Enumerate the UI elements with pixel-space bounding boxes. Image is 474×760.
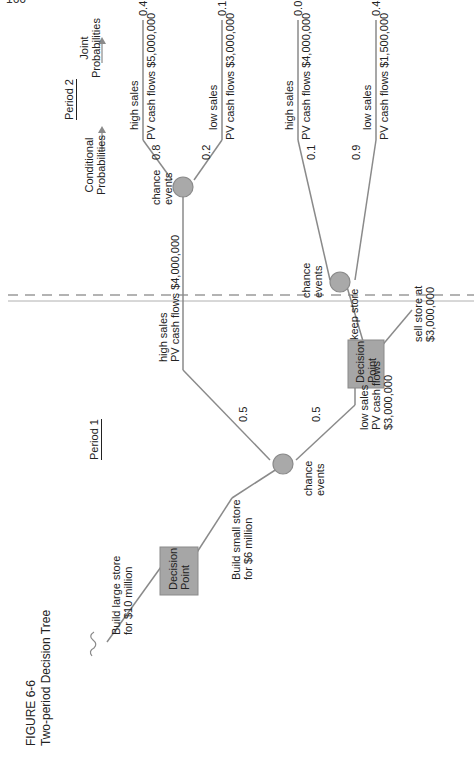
p1-high-label: high sales PV cash flows $4,000,000: [157, 235, 181, 362]
period-2-label: Period 2: [63, 79, 75, 120]
outcome-4-joint: 0.45: [370, 0, 382, 16]
outcome-3-joint: 0.05: [292, 0, 304, 16]
outcome-3-conditional: 0.1: [305, 145, 317, 160]
chance-events-period1-label: chance events: [302, 461, 326, 496]
branch-p1-high: [183, 370, 270, 460]
p1-high-probability: 0.5: [237, 407, 249, 422]
outcome-1-event: high sales: [128, 80, 140, 130]
figure-title: Two-period Decision Tree: [39, 610, 54, 746]
sell-store-label: sell store at $3,000,000: [412, 286, 436, 342]
decision-tree-diagram: FIGURE 6-6 Two-period Decision Tree Peri…: [0, 0, 474, 760]
broken-branch-squiggle-icon: [90, 632, 95, 656]
chance-node-period1-icon: [273, 454, 293, 474]
branch-p1-low: [296, 405, 355, 460]
chance-node-lower-icon: [330, 272, 350, 292]
outcome-2-joint: 0.1: [216, 1, 228, 16]
branch-sell-store: [380, 310, 412, 348]
outcome-3-event: high sales: [283, 80, 295, 130]
outcome-4-conditional: 0.9: [350, 145, 362, 160]
chance-node-upper-icon: [173, 177, 193, 197]
outcome-1-joint: 0.4: [137, 1, 149, 16]
chance-events-lower-label: chance events: [300, 263, 324, 298]
outcome-1-cash: PV cash flows $5,000,000: [145, 13, 157, 140]
small-store-label: Build small store for $6 million: [230, 499, 254, 580]
p1-low-probability: 0.5: [310, 407, 322, 422]
chance-events-upper-label: chance events: [150, 170, 174, 205]
decision-point-root-label: Decision Point: [167, 548, 191, 590]
large-store-label: Build large store for $10 million: [110, 556, 134, 636]
outcome-1-conditional: 0.8: [150, 145, 162, 160]
outcome-3-cash: PV cash flows $4,000,000: [300, 13, 312, 140]
outcome-2-cash: PV cash flows $3,000,000: [224, 13, 236, 140]
outcome-4-cash: PV cash flows $1,500,000: [378, 13, 390, 140]
keep-store-label: keep store: [348, 289, 360, 340]
outcome-4-event: low sales: [361, 85, 373, 130]
period-1-label: Period 1: [88, 419, 100, 460]
joint-probabilities-header: Joint Probabilities: [78, 18, 102, 78]
outcome-2-conditional: 0.2: [200, 145, 212, 160]
conditional-probabilities-header: Conditional Probabilities: [83, 135, 107, 195]
figure-caption: FIGURE 6-6 Two-period Decision Tree: [24, 610, 54, 746]
figure-label: FIGURE 6-6: [24, 610, 39, 746]
p1-low-label: low sales PV cash flows $3,000,000: [358, 361, 394, 430]
outcome-2-event: low sales: [207, 85, 219, 130]
